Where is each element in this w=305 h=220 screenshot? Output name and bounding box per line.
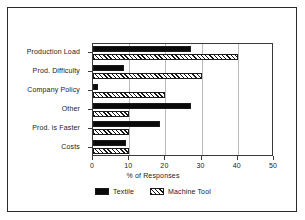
- bar-textile: [93, 84, 98, 90]
- bar-group: [93, 44, 272, 63]
- y-axis-label: Prod. is Faster: [32, 124, 80, 132]
- legend-swatch-textile: [95, 188, 109, 195]
- x-axis-tick: [128, 156, 129, 160]
- bar-textile: [93, 103, 191, 109]
- y-axis-label: Costs: [61, 143, 80, 151]
- bar-group: [93, 63, 272, 82]
- plot-area: [92, 43, 273, 156]
- legend-label: Textile: [113, 188, 134, 195]
- legend-entry: Machine Tool: [150, 188, 211, 195]
- x-axis-tick-label: 10: [118, 162, 138, 169]
- bar-textile: [93, 140, 126, 146]
- bar-machine-tool: [93, 148, 129, 154]
- bar-machine-tool: [93, 92, 165, 98]
- y-axis-label: Production Load: [27, 48, 80, 56]
- x-axis-tick: [164, 156, 165, 160]
- bar-machine-tool: [93, 73, 202, 79]
- legend-swatch-machine-tool: [150, 188, 164, 195]
- bar-textile: [93, 65, 124, 71]
- y-axis-label: Prod. Difficulty: [33, 67, 80, 75]
- x-axis-tick: [237, 156, 238, 160]
- legend-entry: Textile: [95, 188, 134, 195]
- legend-label: Machine Tool: [168, 188, 211, 195]
- x-axis-tick-label: 40: [227, 162, 247, 169]
- chart-page-frame: Production LoadProd. DifficultyCompany P…: [7, 7, 297, 212]
- bar-group: [93, 101, 272, 120]
- bar-group: [93, 82, 272, 101]
- x-axis-title: % of Responses: [8, 172, 298, 179]
- x-axis-tick-label: 50: [263, 162, 283, 169]
- x-axis-tick: [201, 156, 202, 160]
- bar-machine-tool: [93, 54, 238, 60]
- x-axis-tick-label: 30: [191, 162, 211, 169]
- y-axis-label: Other: [62, 105, 80, 113]
- y-axis-labels: Production LoadProd. DifficultyCompany P…: [8, 43, 88, 156]
- chart-legend: TextileMachine Tool: [8, 188, 298, 195]
- x-axis-tick: [273, 156, 274, 160]
- bar-machine-tool: [93, 129, 129, 135]
- bar-textile: [93, 46, 191, 52]
- bar-group: [93, 119, 272, 138]
- x-axis-tick-label: 20: [154, 162, 174, 169]
- bar-textile: [93, 121, 160, 127]
- x-axis-tick: [92, 156, 93, 160]
- bar-machine-tool: [93, 111, 129, 117]
- bar-group: [93, 138, 272, 157]
- y-axis-label: Company Policy: [27, 86, 80, 94]
- x-axis-tick-label: 0: [82, 162, 102, 169]
